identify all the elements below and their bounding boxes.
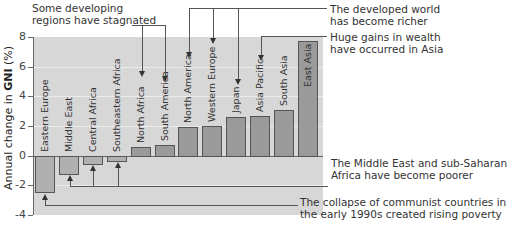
arrow-down-icon xyxy=(139,71,145,77)
bar xyxy=(83,156,103,165)
y-tick-mark xyxy=(28,215,33,216)
arrow-up-icon xyxy=(115,162,121,168)
leader-line xyxy=(238,8,239,80)
bar-label: Asia Pacific xyxy=(254,59,265,112)
bar-label: Western Europe xyxy=(206,47,217,122)
bar xyxy=(59,156,79,175)
arrow-down-icon xyxy=(186,52,192,58)
y-tick-label: 8 xyxy=(12,30,26,43)
bar-label: East Asia xyxy=(302,44,313,87)
arrow-up-icon xyxy=(42,194,48,200)
bar-label: Southeastern Africa xyxy=(111,58,122,152)
bar-label: Japan xyxy=(230,87,241,114)
y-axis xyxy=(33,37,34,215)
y-tick-mark xyxy=(28,96,33,97)
bar-label: North Africa xyxy=(135,86,146,143)
bar xyxy=(226,117,246,157)
leader-line xyxy=(189,8,190,53)
leader-line xyxy=(189,8,327,9)
bar xyxy=(178,127,198,157)
y-tick-label: -4 xyxy=(12,208,26,221)
y-tick-mark xyxy=(28,67,33,68)
arrow-up-icon xyxy=(90,165,96,171)
annotation-asia: Huge gains in wealthhave occurred in Asi… xyxy=(330,31,443,55)
leader-line xyxy=(213,8,214,39)
leader-line xyxy=(261,36,327,37)
bar-label: Eastern Europe xyxy=(39,79,50,152)
bar xyxy=(250,116,270,157)
bar xyxy=(35,156,55,193)
y-tick-mark xyxy=(28,126,33,127)
leader-line xyxy=(132,25,166,26)
leader-line xyxy=(70,186,328,187)
annotation-poorer: The Middle East and sub-SaharanAfrica ha… xyxy=(331,157,507,181)
arrow-down-icon xyxy=(258,55,264,61)
bar xyxy=(274,110,294,157)
leader-line xyxy=(45,205,298,206)
bar xyxy=(155,145,175,157)
y-tick-mark xyxy=(28,185,33,186)
arrow-up-icon xyxy=(67,175,73,181)
bar-label: South Asia xyxy=(278,55,289,106)
leader-line xyxy=(261,36,262,56)
arrow-down-icon xyxy=(210,38,216,44)
arrow-down-icon xyxy=(162,76,168,82)
annotation-developed: The developed worldhas become richer xyxy=(330,3,440,27)
bar-label: Middle East xyxy=(63,97,74,152)
y-tick-mark xyxy=(28,37,33,38)
bar xyxy=(202,126,222,157)
annotation-stagnated: Some developingregions have stagnated xyxy=(32,2,156,26)
annotation-communist: The collapse of communist countries inth… xyxy=(300,196,506,220)
leader-line xyxy=(142,25,143,72)
arrow-down-icon xyxy=(235,79,241,85)
leader-line xyxy=(165,25,166,77)
y-axis-label: Annual change in GNI (%) xyxy=(2,46,15,190)
bar-label: Central Africa xyxy=(87,87,98,152)
bar xyxy=(131,147,151,157)
leader-line xyxy=(118,165,119,186)
bar-label: North America xyxy=(182,54,193,123)
